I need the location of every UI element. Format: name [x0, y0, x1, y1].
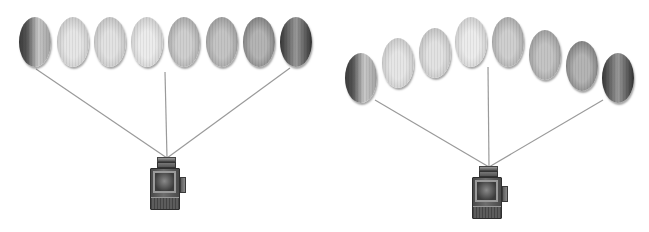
egg-object	[602, 53, 634, 103]
egg-object	[94, 17, 126, 67]
egg-object	[206, 17, 238, 67]
egg-texture	[280, 17, 312, 67]
egg-object	[566, 41, 598, 91]
egg-object	[529, 30, 561, 80]
egg-texture	[382, 38, 414, 88]
camera-icon	[150, 157, 188, 212]
sight-line	[167, 68, 290, 158]
sight-line	[488, 67, 489, 167]
egg-texture	[57, 17, 89, 67]
camera-viewfinder	[475, 180, 498, 202]
egg-texture	[455, 17, 487, 67]
egg-object	[455, 17, 487, 67]
egg-object	[168, 17, 200, 67]
egg-texture	[131, 17, 163, 67]
egg-texture	[602, 53, 634, 103]
egg-texture	[419, 28, 451, 78]
camera-side-grip	[502, 186, 508, 202]
figure-canvas	[0, 0, 649, 232]
egg-object	[19, 17, 51, 67]
egg-texture	[168, 17, 200, 67]
egg-texture	[529, 30, 561, 80]
sight-line	[489, 100, 603, 167]
egg-texture	[566, 41, 598, 91]
egg-object	[280, 17, 312, 67]
egg-texture	[492, 17, 524, 67]
sight-line	[36, 69, 167, 158]
egg-texture	[94, 17, 126, 67]
sight-line	[375, 100, 489, 167]
egg-object	[243, 17, 275, 67]
egg-texture	[345, 53, 377, 103]
camera-side-grip	[180, 177, 186, 193]
camera-icon	[472, 166, 510, 221]
egg-object	[131, 17, 163, 67]
camera-base	[151, 197, 179, 209]
camera-viewfinder	[153, 171, 176, 193]
egg-texture	[19, 17, 51, 67]
egg-object	[345, 53, 377, 103]
egg-texture	[206, 17, 238, 67]
egg-object	[492, 17, 524, 67]
egg-object	[419, 28, 451, 78]
egg-object	[57, 17, 89, 67]
egg-texture	[243, 17, 275, 67]
egg-object	[382, 38, 414, 88]
camera-base	[473, 206, 501, 218]
sight-line	[165, 72, 167, 158]
